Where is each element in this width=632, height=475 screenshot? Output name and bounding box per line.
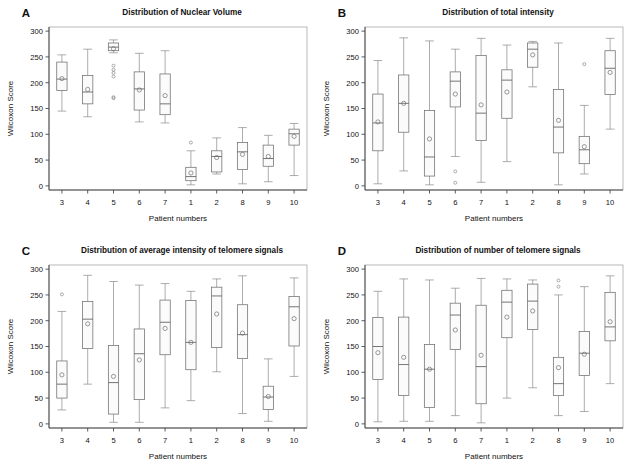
panel-a: ADistribution of Nuclear Volume050100150… [0, 0, 316, 237]
box-iqr [134, 329, 144, 400]
y-tick-label: 0 [39, 420, 43, 429]
box-iqr [186, 301, 196, 370]
y-tick-label: 150 [346, 342, 359, 351]
x-tick-label: 9 [266, 436, 270, 445]
x-tick-label: 10 [606, 198, 614, 207]
box-group [57, 293, 67, 410]
box-group [186, 141, 196, 185]
box-group [553, 279, 563, 416]
x-tick-label: 8 [556, 436, 560, 445]
box-group [399, 279, 409, 421]
box-iqr [160, 300, 170, 355]
panel-letter-a: A [22, 7, 30, 19]
box-group [399, 38, 409, 171]
x-tick-label: 6 [137, 436, 141, 445]
box-group [605, 276, 615, 384]
y-tick-label: 50 [351, 156, 359, 165]
y-tick-label: 300 [346, 265, 359, 274]
x-tick-label: 2 [531, 436, 535, 445]
y-tick-label: 150 [30, 104, 43, 113]
box-iqr [399, 317, 409, 395]
outlier-point [557, 279, 560, 282]
x-tick-label: 4 [402, 198, 406, 207]
x-tick-label: 8 [556, 198, 560, 207]
y-tick-label: 0 [39, 182, 43, 191]
y-tick-label: 100 [346, 368, 359, 377]
box-group [450, 288, 460, 415]
box-group [579, 63, 589, 174]
outlier-point [60, 293, 63, 296]
x-axis-title: Patient numbers [149, 214, 207, 223]
box-group [502, 279, 512, 398]
box-group [134, 285, 144, 422]
box-group [528, 41, 538, 86]
x-tick-label: 3 [376, 198, 380, 207]
x-tick-label: 6 [453, 198, 457, 207]
y-axis-title: Wilcoxon Score [6, 318, 15, 374]
box-group [553, 43, 563, 185]
box-group [579, 287, 589, 412]
box-iqr [424, 344, 434, 407]
box-iqr [108, 345, 118, 414]
y-tick-label: 250 [30, 53, 43, 62]
box-group [373, 291, 383, 422]
plot-title: Distribution of average intensity of tel… [81, 246, 283, 255]
x-tick-label: 5 [427, 198, 431, 207]
panel-a-plot: ADistribution of Nuclear Volume050100150… [0, 0, 316, 237]
box-group [160, 284, 170, 408]
outlier-point [112, 64, 115, 67]
x-tick-label: 1 [189, 198, 193, 207]
x-axis-title: Patient numbers [149, 452, 207, 461]
box-iqr [57, 361, 67, 398]
y-tick-label: 0 [355, 420, 359, 429]
box-iqr [528, 43, 538, 67]
outlier-point [454, 181, 457, 184]
plot-title: Distribution of total intensity [442, 8, 554, 17]
box-group [83, 275, 93, 384]
y-axis-title: Wilcoxon Score [322, 80, 331, 136]
box-iqr [502, 290, 512, 337]
outlier-point [557, 285, 560, 288]
box-group [605, 38, 615, 129]
box-group [212, 279, 222, 372]
x-tick-label: 9 [582, 436, 586, 445]
box-group [424, 280, 434, 421]
y-tick-label: 150 [30, 342, 43, 351]
x-tick-label: 9 [266, 198, 270, 207]
x-tick-label: 2 [531, 198, 535, 207]
y-tick-label: 300 [30, 27, 43, 36]
box-iqr [212, 151, 222, 172]
box-iqr [186, 167, 196, 180]
x-tick-label: 1 [505, 198, 509, 207]
x-tick-label: 5 [111, 436, 115, 445]
x-tick-label: 4 [402, 436, 406, 445]
box-group [108, 282, 118, 423]
box-iqr [83, 302, 93, 349]
box-group [237, 128, 247, 184]
box-iqr [83, 75, 93, 103]
box-iqr [450, 303, 460, 349]
box-group [450, 49, 460, 184]
x-axis-title: Patient numbers [465, 214, 523, 223]
panel-letter-b: B [338, 7, 346, 19]
x-tick-label: 1 [189, 436, 193, 445]
x-tick-label: 8 [240, 436, 244, 445]
x-tick-label: 9 [582, 198, 586, 207]
x-tick-label: 7 [163, 436, 167, 445]
x-tick-label: 7 [479, 436, 483, 445]
y-tick-label: 0 [355, 182, 359, 191]
box-iqr [476, 55, 486, 140]
box-group [263, 135, 273, 181]
y-tick-label: 250 [346, 291, 359, 300]
y-tick-label: 200 [346, 79, 359, 88]
boxplot-figure: ADistribution of Nuclear Volume050100150… [0, 0, 632, 475]
panel-c: CDistribution of average intensity of te… [0, 238, 316, 475]
box-group [528, 280, 538, 388]
y-tick-label: 200 [346, 317, 359, 326]
panel-c-plot: CDistribution of average intensity of te… [0, 238, 316, 475]
box-group [424, 41, 434, 185]
x-tick-label: 2 [215, 436, 219, 445]
box-group [263, 359, 273, 421]
box-group [57, 55, 67, 111]
outlier-point [112, 68, 115, 71]
